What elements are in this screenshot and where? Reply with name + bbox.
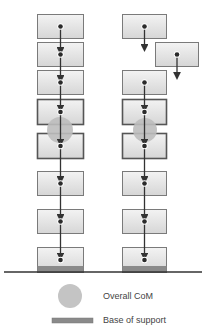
block-com-dot [58,219,63,224]
block-com-dot [142,24,147,29]
legend-com-icon [58,284,82,308]
block-com-dot [142,258,147,263]
block-com-dot [58,52,63,57]
legend-base-icon [52,318,93,323]
block-com-dot [58,24,63,29]
block-com-dot [142,144,147,149]
stacks-layer [38,15,199,273]
legend-com-label: Overall CoM [103,291,153,301]
block-com-dot [175,52,180,57]
block-com-dot [58,80,63,85]
block-com-dot [142,80,147,85]
aligned-stack [38,15,84,273]
legend-base-label: Base of support [103,315,166,325]
block-com-dot [142,181,147,186]
block-com-dot [58,258,63,263]
block-com-dot [142,219,147,224]
diagram-canvas [0,0,208,331]
stacking-diagram: Overall CoM Base of support [0,0,208,331]
base-of-support [123,266,167,272]
block-com-dot [142,110,147,115]
block-com-dot [58,144,63,149]
block-com-dot [58,110,63,115]
base-of-support [38,266,84,272]
offset-stack [123,15,199,273]
block-com-dot [58,181,63,186]
